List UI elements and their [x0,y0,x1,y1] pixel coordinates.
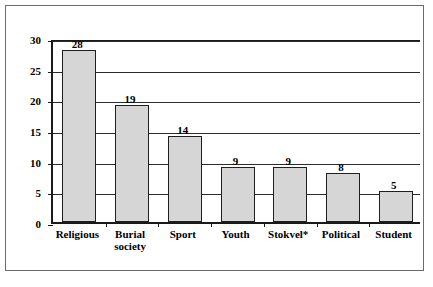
bar-value-label: 9 [233,156,239,167]
gridline [53,41,420,42]
y-axis-tick-label: 20 [30,96,41,107]
gridline [53,72,420,73]
bar [168,136,202,222]
y-axis-tick [48,41,53,42]
chart-plot-area [51,40,420,224]
y-axis-tick-label: 5 [36,188,42,199]
x-axis-category-label: Burial society [114,228,146,252]
y-axis-tick [48,194,53,195]
y-axis-tick [48,102,53,103]
x-axis-tick [264,222,265,227]
bar-value-label: 14 [177,125,188,136]
y-axis-tick [48,72,53,73]
bar [62,50,96,222]
y-axis-tick-label: 15 [30,127,41,138]
x-axis-category-label: Stokvel* [268,228,308,240]
bar-value-label: 9 [285,156,291,167]
x-axis-category-label: Youth [221,228,249,240]
y-axis-tick-label: 0 [36,219,42,230]
x-axis-tick [106,222,107,227]
bar [115,105,149,222]
x-axis-category-label: Religious [56,228,99,240]
bar-value-label: 5 [391,180,397,191]
x-axis-tick [317,222,318,227]
x-axis-category-label: Political [322,228,361,240]
bar-value-label: 8 [338,162,344,173]
bar [273,167,307,222]
y-axis-tick-label: 10 [30,157,41,168]
gridline [53,133,420,134]
y-axis-tick-label: 25 [30,65,41,76]
chart-figure-frame: 051015202530 2819149985 ReligiousBurial … [5,5,424,271]
bar-value-label: 19 [125,94,136,105]
bar [326,173,360,222]
x-axis-category-label: Sport [170,228,196,240]
y-axis-tick [48,164,53,165]
x-axis-tick [158,222,159,227]
y-axis-tick-label: 30 [30,35,41,46]
x-axis-tick [211,222,212,227]
bar [221,167,255,222]
bar-value-label: 28 [72,39,83,50]
y-axis-tick [48,225,53,226]
gridline [53,102,420,103]
x-axis-tick [369,222,370,227]
bar [379,191,413,222]
x-axis-category-label: Student [375,228,412,240]
y-axis-tick [48,133,53,134]
